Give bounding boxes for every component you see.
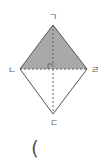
vertex-label-right: ㄹ (91, 65, 99, 75)
vertex-label-bottom: ㄷ (50, 118, 58, 128)
rhombus-diagram: ㄱ ㄴ ㄷ ㄹ (0, 0, 112, 160)
vertex-label-left: ㄴ (8, 65, 16, 75)
vertex-label-top: ㄱ (49, 12, 57, 22)
answer-blank-paren: ( (31, 138, 39, 158)
